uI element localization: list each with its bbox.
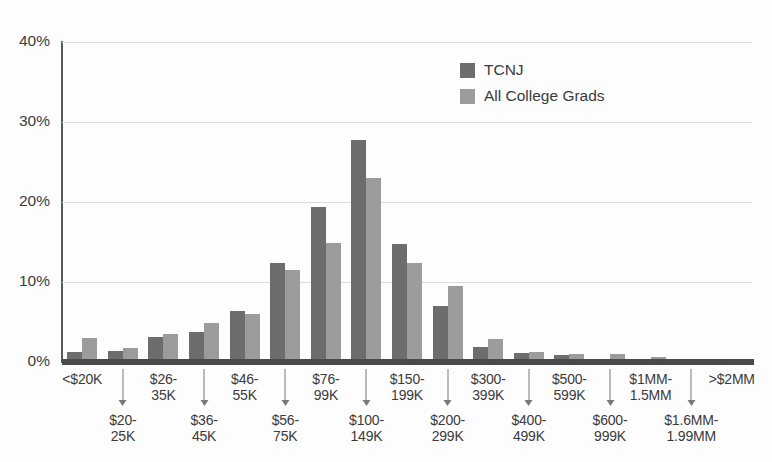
plot-area [62,42,752,362]
bar [392,244,407,362]
legend-swatch-icon [460,89,475,104]
bar-group [184,42,225,362]
x-axis-tick-labels: <$20K$20- 25K$26- 35K$36- 45K$46- 55K$56… [62,366,752,462]
bar [448,286,463,362]
bar [230,311,245,362]
bar-group [143,42,184,362]
legend-label: TCNJ [484,61,524,79]
y-axis-tick-label: 10% [0,272,50,290]
bar [163,334,178,362]
legend-item-tcnj: TCNJ [460,57,605,83]
arrow-down-icon [204,369,205,403]
bar-group [712,42,753,362]
legend-label: All College Grads [484,87,605,105]
bar [204,323,219,362]
bar [245,314,260,362]
chart-legend: TCNJ All College Grads [460,57,605,109]
legend-item-all-college-grads: All College Grads [460,83,605,109]
arrow-down-icon [122,369,123,403]
x-axis-tick-text: >$2MM [698,371,767,387]
bar [189,332,204,362]
arrow-down-icon [528,369,529,403]
bar [407,263,422,362]
bar-group [103,42,144,362]
y-axis-tick-label: 0% [0,352,50,370]
bar-group [346,42,387,362]
arrow-down-icon [366,369,367,403]
bar [270,263,285,362]
bar-group [265,42,306,362]
arrow-down-icon [610,369,611,403]
bar [351,140,366,362]
y-axis-tick-label: 40% [0,32,50,50]
bar-group [306,42,347,362]
arrow-down-icon [285,369,286,403]
x-axis-line [62,359,754,365]
y-axis-tick-label: 30% [0,112,50,130]
legend-swatch-icon [460,63,475,78]
bar [326,243,341,362]
bar-group [387,42,428,362]
bar [433,306,448,362]
bar [366,178,381,362]
bar-chart: 0%10%20%30%40% TCNJ All College Grads <$… [0,0,772,462]
bar [311,207,326,362]
arrow-down-icon [691,369,692,403]
bar-group [62,42,103,362]
bar-group [224,42,265,362]
x-axis-tick-label: >$2MM [712,366,753,462]
bar [285,270,300,362]
y-axis-tick-label: 20% [0,192,50,210]
arrow-down-icon [447,369,448,403]
bar-groups [62,42,752,362]
bar-group [630,42,671,362]
bar-group [671,42,712,362]
